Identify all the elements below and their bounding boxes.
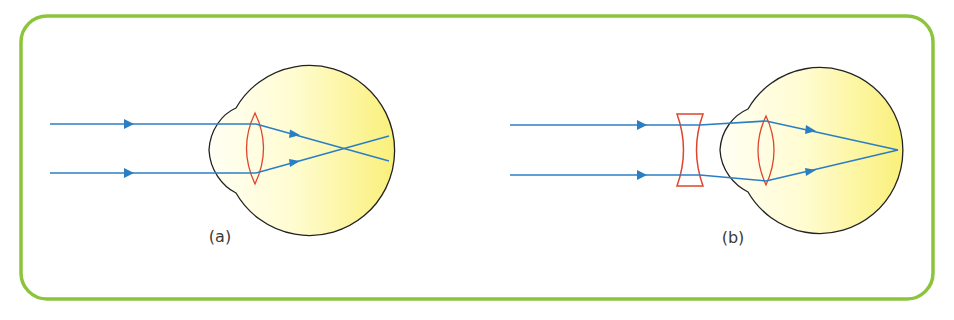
caption-b: (b) xyxy=(722,228,745,247)
caption-a: (a) xyxy=(209,227,231,246)
myopia-diagram xyxy=(0,0,954,320)
